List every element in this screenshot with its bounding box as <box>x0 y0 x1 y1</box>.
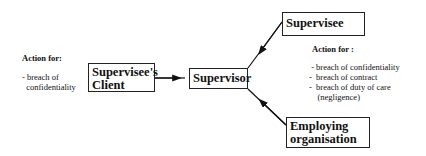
right-action-heading: Action for : <box>312 44 354 54</box>
left-action-item: - breach of <box>22 72 76 82</box>
right-action-list: - breach of confidentiality- breach of c… <box>309 62 400 102</box>
node-label: organisation <box>290 133 366 146</box>
node-supervisees-client: Supervisee's Client <box>88 63 155 92</box>
left-action-list: - breach of confidentiality <box>22 72 76 92</box>
node-supervisor: Supervisor <box>189 68 248 89</box>
left-action-item: confidentiality <box>22 82 76 92</box>
arrow-employer-to-supervisor <box>262 102 286 125</box>
right-action-item: - breach of duty of care <box>309 82 400 92</box>
right-action-item: - breach of contract <box>309 72 400 82</box>
node-employing-organisation: Employing organisation <box>286 117 370 148</box>
node-label: Supervisee <box>286 17 361 30</box>
node-label: Supervisor <box>193 72 244 85</box>
right-action-item: (negligence) <box>309 92 400 102</box>
node-label: Client <box>92 79 151 92</box>
left-action-heading: Action for: <box>22 53 62 63</box>
right-action-item: - breach of confidentiality <box>309 62 400 72</box>
arrow-supervisee-to-supervisor <box>261 22 282 51</box>
node-supervisee: Supervisee <box>282 12 365 36</box>
